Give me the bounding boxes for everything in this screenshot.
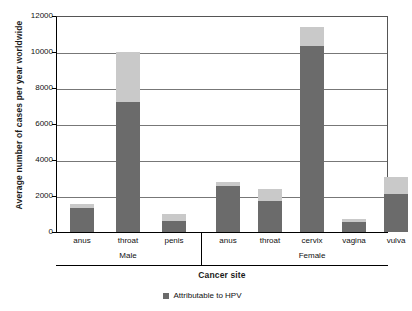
bar-vulva-female[interactable]: [384, 177, 408, 232]
bar-segment-not-attributable-to-hpv: [116, 52, 140, 102]
x-axis-title: Cancer site: [56, 270, 388, 280]
group-divider: [201, 232, 202, 265]
bar-cervix-female[interactable]: [300, 27, 324, 232]
category-label-throat-female: throat: [247, 236, 293, 246]
bar-segment-attributable-to-hpv: [384, 194, 408, 232]
bar-anus-female[interactable]: [216, 182, 240, 232]
bar-segment-not-attributable-to-hpv: [342, 219, 366, 222]
bar-segment-attributable-to-hpv: [342, 222, 366, 232]
category-label-anus-male: anus: [59, 236, 105, 246]
bar-segment-attributable-to-hpv: [162, 221, 186, 232]
category-label-throat-male: throat: [105, 236, 151, 246]
category-label-cervix-female: cervix: [289, 236, 335, 246]
bar-penis-male[interactable]: [162, 214, 186, 232]
bar-segment-not-attributable-to-hpv: [258, 189, 282, 202]
bar-segment-attributable-to-hpv: [216, 186, 240, 232]
bar-throat-female[interactable]: [258, 189, 282, 232]
bar-anus-male[interactable]: [70, 204, 94, 232]
category-label-vulva-female: vulva: [373, 236, 412, 246]
group-label-female: Female: [272, 251, 352, 261]
bar-segment-not-attributable-to-hpv: [216, 182, 240, 187]
category-band-bottom-rule: [56, 265, 388, 266]
bar-segment-not-attributable-to-hpv: [162, 214, 186, 221]
category-label-anus-female: anus: [205, 236, 251, 246]
bar-segment-attributable-to-hpv: [116, 102, 140, 232]
bar-segment-attributable-to-hpv: [70, 208, 94, 232]
bar-segment-attributable-to-hpv: [258, 201, 282, 232]
y-tick-label: 6000: [9, 120, 53, 128]
group-label-male: Male: [88, 251, 168, 261]
legend-swatch-icon: [163, 293, 169, 299]
bars-layer: [56, 16, 388, 232]
y-tick-label: 0: [9, 228, 53, 236]
bar-throat-male[interactable]: [116, 52, 140, 232]
y-tick-label: 2000: [9, 192, 53, 200]
y-tick-label: 4000: [9, 156, 53, 164]
category-label-penis-male: penis: [151, 236, 197, 246]
bar-segment-attributable-to-hpv: [300, 46, 324, 232]
chart-legend: Attributable to HPV: [0, 291, 405, 300]
bar-vagina-female[interactable]: [342, 219, 366, 232]
bar-segment-not-attributable-to-hpv: [300, 27, 324, 46]
y-tick-label: 12000: [9, 12, 53, 20]
bar-segment-not-attributable-to-hpv: [70, 204, 94, 207]
legend-label: Attributable to HPV: [173, 291, 241, 300]
y-tick-label: 8000: [9, 84, 53, 92]
bar-segment-not-attributable-to-hpv: [384, 177, 408, 194]
category-label-band: anusthroatpenisanusthroatcervixvaginavul…: [56, 232, 388, 266]
y-tick-label: 10000: [9, 48, 53, 56]
category-label-vagina-female: vagina: [331, 236, 377, 246]
y-axis-title: Average number of cases per year worldwi…: [14, 10, 24, 220]
